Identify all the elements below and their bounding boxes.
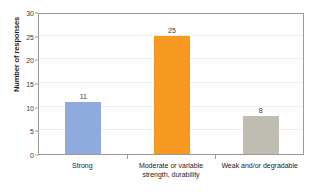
bar-value-label: 11 [80, 93, 87, 100]
bars-layer: 11258 [39, 14, 303, 154]
bar-value-label: 25 [168, 27, 176, 34]
bar[interactable] [243, 116, 279, 154]
x-tick-mark [215, 155, 216, 159]
y-tick-mark [35, 131, 38, 132]
y-tick-label: 20 [12, 57, 34, 64]
bar-group: 11 [65, 102, 101, 154]
x-tick-label-line: Moderate or variable [127, 161, 216, 170]
y-tick-label: 25 [12, 33, 34, 40]
x-tick-label: Strong [38, 161, 127, 170]
bar-group: 25 [154, 36, 190, 154]
x-tick-mark [127, 155, 128, 159]
bar-value-label: 8 [259, 107, 263, 114]
bar-chart: Number of responses 11258 051015202530 S… [0, 0, 322, 192]
y-tick-mark [35, 13, 38, 14]
y-tick-label: 5 [12, 128, 34, 135]
bar[interactable] [65, 102, 101, 154]
y-tick-mark [35, 36, 38, 37]
x-tick-label: Moderate or variablestrength, durability [127, 161, 216, 179]
x-tick-label-line: Strong [38, 161, 127, 170]
x-tick-label: Weak and/or degradable [215, 161, 304, 170]
bar-group: 8 [243, 116, 279, 154]
y-tick-label: 0 [12, 152, 34, 159]
y-tick-mark [35, 155, 38, 156]
y-tick-label: 15 [12, 81, 34, 88]
plot-area: 11258 [38, 13, 304, 155]
bar[interactable] [154, 36, 190, 154]
x-tick-label-line: Weak and/or degradable [215, 161, 304, 170]
y-tick-label: 30 [12, 10, 34, 17]
x-tick-label-line: strength, durability [127, 170, 216, 179]
y-tick-mark [35, 84, 38, 85]
y-tick-label: 10 [12, 104, 34, 111]
y-tick-mark [35, 60, 38, 61]
y-tick-mark [35, 107, 38, 108]
